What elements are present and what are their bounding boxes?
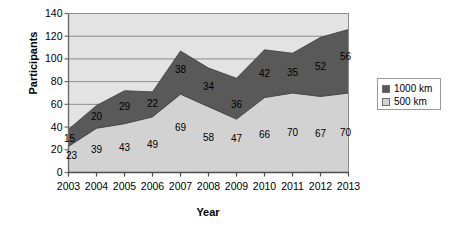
x-tick-label: 2007 — [166, 181, 196, 192]
legend-label-500km: 500 km — [394, 96, 427, 107]
data-label-500km: 66 — [254, 130, 276, 140]
x-tick-label: 2010 — [250, 181, 280, 192]
data-label-500km: 67 — [310, 129, 332, 139]
data-label-500km: 70 — [335, 128, 357, 138]
data-label-500km: 69 — [170, 123, 192, 133]
chart-legend: 1000 km 500 km — [377, 78, 441, 110]
data-label-1000km: 29 — [114, 102, 136, 112]
x-tick-label: 2013 — [334, 181, 364, 192]
data-label-1000km: 35 — [282, 68, 304, 78]
data-label-1000km: 15 — [59, 134, 81, 144]
data-label-1000km: 42 — [254, 69, 276, 79]
data-label-500km: 23 — [61, 151, 83, 161]
data-label-1000km: 56 — [335, 52, 357, 62]
legend-item-1000km: 1000 km — [382, 82, 432, 95]
x-tick-label: 2004 — [82, 181, 112, 192]
data-label-500km: 47 — [226, 134, 248, 144]
x-axis-title: Year — [68, 206, 348, 218]
x-tick-label: 2006 — [138, 181, 168, 192]
y-tick-label: 40 — [29, 122, 63, 132]
data-label-1000km: 34 — [198, 82, 220, 92]
data-label-1000km: 52 — [310, 62, 332, 72]
legend-item-500km: 500 km — [382, 95, 427, 108]
legend-label-1000km: 1000 km — [394, 83, 432, 94]
data-label-500km: 49 — [142, 140, 164, 150]
x-tick-label: 2005 — [110, 181, 140, 192]
data-label-500km: 39 — [86, 145, 108, 155]
legend-swatch-500km — [382, 98, 390, 106]
data-label-1000km: 22 — [142, 99, 164, 109]
x-tick-label: 2009 — [222, 181, 252, 192]
x-tick-label: 2008 — [194, 181, 224, 192]
y-tick-label: 20 — [29, 144, 63, 154]
plot-area — [0, 0, 450, 232]
data-label-1000km: 36 — [226, 100, 248, 110]
area-chart: 020406080100120140 200320042005200620072… — [0, 0, 450, 232]
data-label-500km: 58 — [198, 133, 220, 143]
data-label-1000km: 38 — [170, 65, 192, 75]
data-label-1000km: 20 — [86, 112, 108, 122]
x-tick-label: 2011 — [278, 181, 308, 192]
data-label-500km: 43 — [114, 143, 136, 153]
legend-swatch-1000km — [382, 85, 390, 93]
y-tick-label: 0 — [29, 167, 63, 177]
y-axis-title: Participants — [27, 3, 39, 123]
x-tick-label: 2012 — [306, 181, 336, 192]
data-label-500km: 70 — [282, 128, 304, 138]
x-tick-label: 2003 — [54, 181, 84, 192]
